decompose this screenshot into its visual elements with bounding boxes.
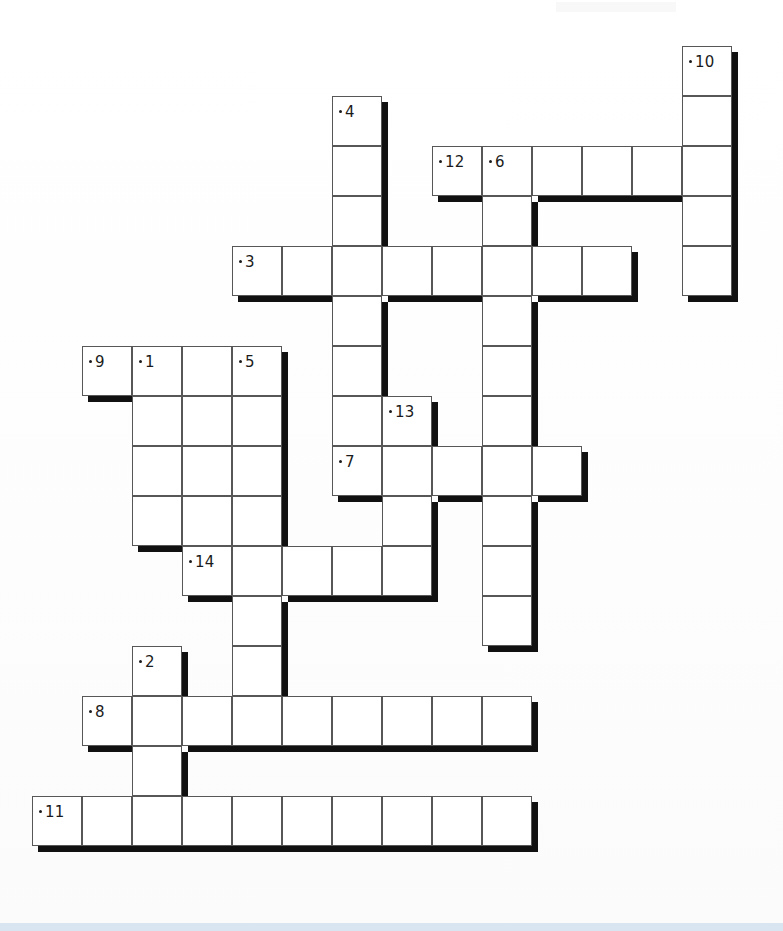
crossword-cell[interactable] — [532, 246, 582, 296]
crossword-cell[interactable] — [232, 596, 282, 646]
word-edge-shadow — [388, 746, 438, 752]
crossword-cell[interactable] — [132, 746, 182, 796]
crossword-cell[interactable] — [232, 246, 282, 296]
crossword-cell[interactable] — [332, 796, 382, 846]
crossword-cell[interactable] — [482, 546, 532, 596]
crossword-cell[interactable] — [132, 446, 182, 496]
crossword-cell[interactable] — [132, 646, 182, 696]
crossword-cell[interactable] — [182, 796, 232, 846]
crossword-cell[interactable] — [332, 696, 382, 746]
crossword-cell[interactable] — [382, 496, 432, 546]
crossword-cell[interactable] — [182, 346, 232, 396]
crossword-cell[interactable] — [332, 96, 382, 146]
word-edge-shadow — [188, 596, 238, 602]
crossword-cell[interactable] — [432, 796, 482, 846]
word-edge-shadow — [388, 596, 438, 602]
word-edge-shadow — [488, 746, 538, 752]
clue-number-5: 5 — [239, 355, 255, 370]
crossword-cell[interactable] — [282, 696, 332, 746]
clue-number-text: 5 — [245, 353, 255, 371]
clue-bullet-icon — [39, 810, 42, 813]
crossword-cell[interactable] — [132, 346, 182, 396]
word-edge-shadow — [432, 402, 438, 452]
clue-bullet-icon — [339, 110, 342, 113]
crossword-cell[interactable] — [682, 96, 732, 146]
crossword-cell[interactable] — [682, 246, 732, 296]
word-edge-shadow — [182, 652, 188, 702]
crossword-cell[interactable] — [232, 446, 282, 496]
clue-number-text: 13 — [395, 403, 415, 421]
crossword-cell[interactable] — [682, 196, 732, 246]
crossword-cell[interactable] — [482, 396, 532, 446]
crossword-cell[interactable] — [332, 346, 382, 396]
crossword-cell[interactable] — [482, 196, 532, 246]
crossword-cell[interactable] — [382, 446, 432, 496]
crossword-cell[interactable] — [332, 246, 382, 296]
crossword-cell[interactable] — [182, 696, 232, 746]
crossword-cell[interactable] — [182, 396, 232, 446]
crossword-cell[interactable] — [232, 346, 282, 396]
crossword-cell[interactable] — [232, 496, 282, 546]
crossword-cell[interactable] — [582, 146, 632, 196]
crossword-cell[interactable] — [182, 496, 232, 546]
crossword-cell[interactable] — [332, 446, 382, 496]
crossword-cell[interactable] — [482, 796, 532, 846]
word-edge-shadow — [582, 452, 588, 502]
clue-number-text: 7 — [345, 453, 355, 471]
crossword-cell[interactable] — [282, 546, 332, 596]
crossword-cell[interactable] — [282, 796, 332, 846]
crossword-cell[interactable] — [532, 446, 582, 496]
crossword-cell[interactable] — [482, 596, 532, 646]
crossword-cell[interactable] — [382, 796, 432, 846]
crossword-cell[interactable] — [582, 246, 632, 296]
crossword-cell[interactable] — [432, 696, 482, 746]
crossword-cell[interactable] — [482, 346, 532, 396]
crossword-cell[interactable] — [532, 146, 582, 196]
crossword-cell[interactable] — [232, 546, 282, 596]
crossword-cell[interactable] — [332, 146, 382, 196]
clue-number-text: 2 — [145, 653, 155, 671]
crossword-cell[interactable] — [332, 196, 382, 246]
crossword-cell[interactable] — [432, 446, 482, 496]
word-edge-shadow — [432, 552, 438, 602]
crossword-cell[interactable] — [82, 346, 132, 396]
crossword-cell[interactable] — [432, 246, 482, 296]
crossword-cell[interactable] — [632, 146, 682, 196]
crossword-cell[interactable] — [132, 496, 182, 546]
crossword-cell[interactable] — [232, 696, 282, 746]
word-edge-shadow — [388, 296, 438, 302]
crossword-cell[interactable] — [332, 546, 382, 596]
clue-number-text: 14 — [195, 553, 215, 571]
crossword-cell[interactable] — [182, 446, 232, 496]
crossword-cell[interactable] — [482, 496, 532, 546]
crossword-cell[interactable] — [332, 296, 382, 346]
crossword-cell[interactable] — [132, 696, 182, 746]
crossword-cell[interactable] — [232, 796, 282, 846]
crossword-grid[interactable]: 1041263915137142811 — [0, 0, 783, 931]
crossword-cell[interactable] — [132, 396, 182, 446]
crossword-cell[interactable] — [482, 696, 532, 746]
crossword-cell[interactable] — [82, 796, 132, 846]
word-edge-shadow — [288, 846, 338, 852]
crossword-cell[interactable] — [482, 146, 532, 196]
word-edge-shadow — [532, 602, 538, 652]
crossword-cell[interactable] — [382, 546, 432, 596]
word-edge-shadow — [338, 496, 388, 502]
crossword-cell[interactable] — [82, 696, 132, 746]
crossword-cell[interactable] — [482, 296, 532, 346]
clue-bullet-icon — [439, 160, 442, 163]
crossword-cell[interactable] — [382, 246, 432, 296]
word-edge-shadow — [338, 596, 388, 602]
crossword-cell[interactable] — [482, 246, 532, 296]
word-edge-shadow — [382, 202, 388, 252]
crossword-cell[interactable] — [682, 146, 732, 196]
crossword-cell[interactable] — [482, 446, 532, 496]
word-edge-shadow — [282, 602, 288, 652]
crossword-cell[interactable] — [232, 646, 282, 696]
crossword-cell[interactable] — [282, 246, 332, 296]
crossword-cell[interactable] — [382, 696, 432, 746]
crossword-cell[interactable] — [232, 396, 282, 446]
crossword-cell[interactable] — [332, 396, 382, 446]
word-edge-shadow — [182, 752, 188, 802]
crossword-cell[interactable] — [132, 796, 182, 846]
